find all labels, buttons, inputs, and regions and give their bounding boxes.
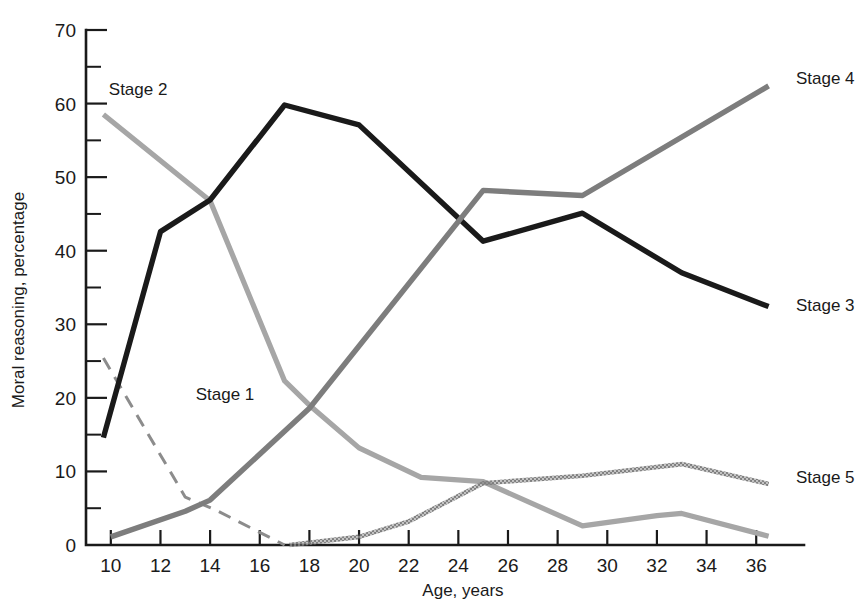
series-label-stage-3: Stage 3	[796, 296, 855, 315]
x-tick-label: 10	[100, 555, 121, 576]
series-labels: Stage 1Stage 2Stage 3Stage 4Stage 5	[109, 69, 855, 487]
x-tick-label: 18	[299, 555, 320, 576]
x-tick-label: 28	[547, 555, 568, 576]
y-tick-label: 0	[65, 535, 76, 556]
tick-labels: 0102030405060701012141618202224262830323…	[55, 20, 767, 576]
x-tick-label: 22	[398, 555, 419, 576]
series-label-stage-4: Stage 4	[796, 69, 855, 88]
x-tick-label: 12	[150, 555, 171, 576]
series-line-stage-4	[111, 86, 769, 537]
y-tick-label: 40	[55, 241, 76, 262]
series-label-stage-1: Stage 1	[196, 385, 255, 404]
x-tick-label: 14	[200, 555, 222, 576]
x-tick-label: 32	[646, 555, 667, 576]
x-tick-label: 36	[746, 555, 767, 576]
y-tick-label: 10	[55, 461, 76, 482]
data-series	[103, 86, 768, 545]
series-label-stage-2: Stage 2	[109, 80, 168, 99]
series-label-stage-5: Stage 5	[796, 468, 855, 487]
y-tick-label: 20	[55, 388, 76, 409]
x-tick-label: 16	[249, 555, 270, 576]
y-tick-label: 70	[55, 20, 76, 41]
y-tick-label: 50	[55, 167, 76, 188]
x-tick-label: 20	[348, 555, 369, 576]
chart-canvas: 0102030405060701012141618202224262830323…	[0, 0, 856, 610]
y-axis-title: Moral reasoning, percentage	[9, 192, 28, 408]
y-tick-label: 60	[55, 94, 76, 115]
x-tick-label: 30	[597, 555, 618, 576]
series-line-stage-1	[103, 358, 284, 545]
x-axis-title: Age, years	[422, 581, 503, 600]
x-tick-label: 34	[696, 555, 718, 576]
moral-reasoning-line-chart: 0102030405060701012141618202224262830323…	[0, 0, 856, 610]
y-tick-label: 30	[55, 314, 76, 335]
series-line-stage-2	[103, 115, 768, 537]
x-tick-label: 24	[448, 555, 470, 576]
x-tick-label: 26	[497, 555, 518, 576]
